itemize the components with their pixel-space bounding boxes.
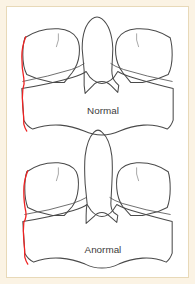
anormal-left-highlight (23, 171, 27, 264)
diagram-label-anormal: Anormal (85, 244, 122, 255)
diagram-label-normal: Normal (87, 105, 119, 116)
anormal-right-wing-tick (136, 168, 138, 181)
normal-left-wing-tick (56, 34, 58, 47)
normal-left-highlight (22, 37, 27, 131)
anormal-left-wing (25, 163, 79, 216)
anormal-right-wing (117, 163, 171, 216)
anormal-band-left-upper (25, 198, 86, 215)
anormal-central-body (85, 130, 118, 223)
normal-central-body (82, 17, 119, 93)
anatomy-comparison-svg: Normal Anormal (7, 7, 188, 277)
diagram-anormal: Anormal (23, 130, 172, 268)
anormal-left-wing-tick (56, 168, 58, 181)
diagram-normal: Normal (22, 17, 173, 135)
normal-lower-block (22, 72, 173, 136)
normal-left-wing (23, 29, 80, 83)
figure-canvas: Normal Anormal (6, 6, 189, 278)
normal-band-left-upper (23, 64, 84, 82)
figure-panel: Normal Anormal (0, 0, 195, 284)
normal-right-wing-tick (136, 34, 138, 47)
